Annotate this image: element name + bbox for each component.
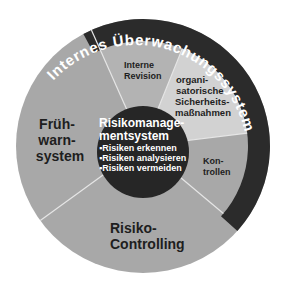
bullet-risiken-analysieren: ▪Risiken analysieren — [99, 153, 186, 163]
bullet-risiken-vermeiden: ▪Risiken vermeiden — [99, 163, 182, 173]
svg-text:system: system — [36, 148, 84, 164]
bullet-risiken-erkennen: ▪Risiken erkennen — [99, 143, 177, 153]
svg-text:Risiko-: Risiko- — [110, 220, 157, 236]
svg-text:Revision: Revision — [124, 71, 162, 81]
label-risikomanagementsystem: Risikomanage- mentsystem ▪Risiken erkenn… — [99, 116, 186, 173]
svg-text:Interne: Interne — [124, 60, 154, 70]
svg-text:satorische: satorische — [176, 85, 224, 96]
svg-text:organi-: organi- — [176, 74, 208, 85]
svg-text:Risikomanage-: Risikomanage- — [99, 116, 184, 130]
risk-management-diagram: Internes Überwachungssystem Früh- warn- … — [0, 0, 282, 294]
svg-text:warn-: warn- — [37, 132, 76, 148]
svg-text:Früh-: Früh- — [39, 116, 75, 132]
svg-text:mentsystem: mentsystem — [99, 129, 169, 143]
svg-text:Controlling: Controlling — [110, 236, 185, 252]
svg-text:trollen: trollen — [203, 167, 231, 177]
svg-text:Kon-: Kon- — [203, 156, 224, 166]
svg-text:Sicherheits-: Sicherheits- — [175, 96, 229, 107]
